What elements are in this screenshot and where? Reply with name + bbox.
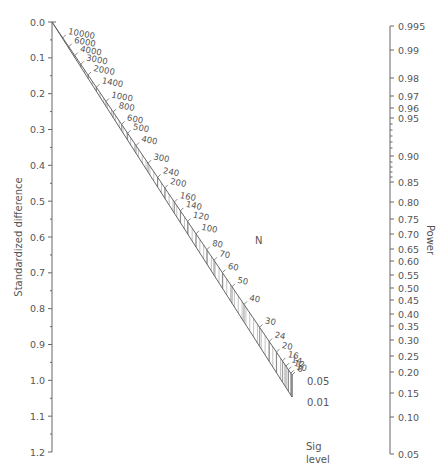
left-axis-tick-label: 0.0 [30,17,45,28]
power-nomogram: 0.00.10.20.30.40.50.60.70.80.91.01.11.2 … [0,0,448,475]
power-tick-label: 0.30 [398,335,419,346]
power-tick-label: 0.95 [398,113,419,124]
n-scale-title: N [255,235,262,246]
power-tick-label: 0.85 [398,177,419,188]
sig-label-001: 0.01 [307,397,329,408]
power-tick-label: 0.45 [398,295,419,306]
n-scale-label: 300 [153,151,171,164]
n-scale-label: 500 [132,121,150,134]
n-scale-label: 400 [141,134,159,147]
left-axis-tick-label: 0.2 [30,88,45,99]
n-scale-label: 1400 [101,75,124,89]
power-tick-label: 0.65 [398,244,419,255]
n-scale-label: 60 [227,261,240,273]
power-tick-label: 0.90 [398,151,419,162]
sig-level-title-1: Sig [306,441,321,452]
power-tick-label: 0.35 [398,321,419,332]
power-tick-label: 0.80 [398,197,419,208]
sig-level-title-2: level [306,454,330,465]
power-tick-label: 0.50 [398,283,419,294]
n-scale-label: 120 [192,210,210,223]
power-tick-label: 0.99 [398,45,419,56]
sig-label-005: 0.05 [307,376,329,387]
left-axis-label: Standardized difference [13,177,24,296]
power-tick-label: 0.97 [398,91,419,102]
n-scale-band [52,22,292,397]
power-tick-label: 0.70 [398,229,419,240]
n-scale-label: 200 [169,176,187,189]
n-scale-label: 30 [264,315,277,327]
n-scale-label: 100 [201,222,219,235]
standardized-difference-axis: 0.00.10.20.30.40.50.60.70.80.91.01.11.2 [30,17,56,458]
left-axis-tick-label: 0.3 [30,124,45,135]
left-axis-tick-label: 0.1 [30,52,45,63]
left-axis-tick-label: 0.9 [30,339,45,350]
left-axis-tick-label: 1.1 [30,411,45,422]
power-tick-label: 0.98 [398,73,419,84]
power-tick-label: 0.20 [398,367,419,378]
power-tick-label: 0.10 [398,412,419,423]
left-axis-tick-label: 0.8 [30,303,45,314]
power-tick-label: 0.05 [398,449,419,460]
right-axis-label: Power [425,225,436,256]
n-scale-label: 70 [219,248,232,260]
left-axis-tick-label: 0.7 [30,267,45,278]
n-scale-label: 800 [118,100,136,113]
left-axis-tick-label: 1.2 [30,447,45,458]
power-tick-label: 0.75 [398,214,419,225]
power-tick-label: 0.995 [398,21,425,32]
left-axis-tick-label: 0.5 [30,196,45,207]
n-scale-label: 50 [237,275,250,287]
n-scale-label: 40 [249,293,262,305]
power-tick-label: 0.25 [398,351,419,362]
left-axis-tick-label: 1.0 [30,375,45,386]
power-axis: 0.9950.990.980.970.960.950.900.850.800.7… [390,21,425,460]
power-tick-label: 0.40 [398,309,419,320]
left-axis-tick-label: 0.6 [30,232,45,243]
power-tick-label: 0.60 [398,256,419,267]
left-axis-tick-label: 0.4 [30,160,45,171]
n-scale-labels: 1000060004000300020001400100080060050040… [63,26,308,375]
power-tick-label: 0.15 [398,388,419,399]
power-tick-label: 0.55 [398,270,419,281]
